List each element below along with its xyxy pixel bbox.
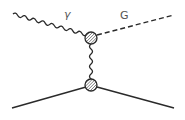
graviton-label: G <box>120 9 129 22</box>
bottom-vertex <box>85 79 97 91</box>
graviton-line <box>97 15 174 35</box>
top-vertex <box>85 32 97 44</box>
fermion-in-line <box>12 87 86 108</box>
fermion-out-line <box>97 87 174 108</box>
photon-line <box>13 13 87 36</box>
feynman-diagram: γ G <box>0 0 185 120</box>
exchange-line <box>90 44 93 84</box>
photon-label: γ <box>64 8 71 21</box>
